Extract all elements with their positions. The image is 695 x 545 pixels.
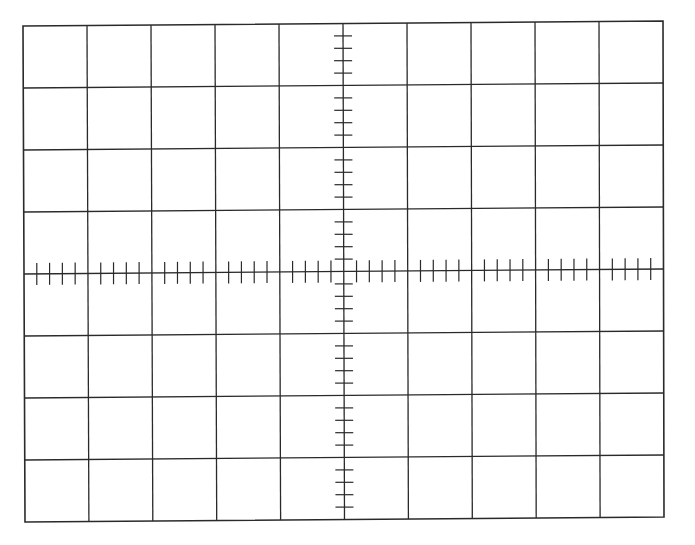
oscilloscope-graticule: [0, 0, 695, 545]
